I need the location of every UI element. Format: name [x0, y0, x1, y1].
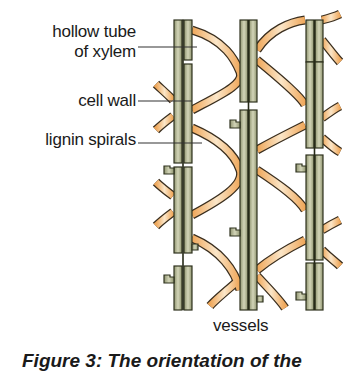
vessel-walls [164, 20, 323, 310]
label-vessels: vessels [0, 316, 358, 336]
vessel-left [164, 20, 198, 310]
figure-caption: Figure 3: The orientation of the [22, 350, 302, 372]
vessel-right [296, 20, 323, 310]
